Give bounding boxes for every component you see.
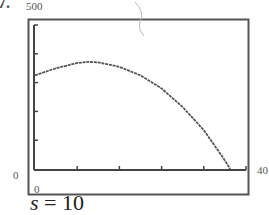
- axis-ticks: [34, 25, 246, 170]
- data-curve: [35, 62, 230, 169]
- caption-equals: =: [39, 190, 62, 215]
- screen-frame-outer: [29, 20, 249, 195]
- caption-value: 10: [62, 190, 84, 215]
- caption: s = 10: [30, 190, 84, 215]
- axes: [34, 25, 246, 170]
- graph-plot: [0, 0, 269, 215]
- caption-variable: s: [30, 190, 39, 215]
